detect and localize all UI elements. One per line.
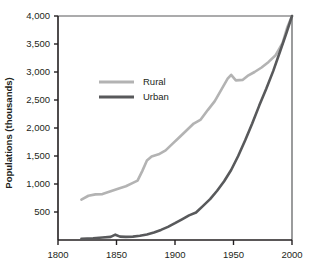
y-tick-label: 2,500 bbox=[26, 94, 50, 105]
x-tick-label: 1850 bbox=[106, 249, 127, 260]
series-line-rural bbox=[81, 16, 292, 200]
chart-legend: RuralUrban bbox=[99, 76, 169, 102]
chart-container: 5001,0001,5002,0002,5003,0003,5004,000 1… bbox=[0, 0, 312, 273]
y-tick-label: 3,000 bbox=[26, 66, 50, 77]
data-series-group bbox=[81, 16, 292, 239]
x-tick-label: 1900 bbox=[164, 249, 185, 260]
population-line-chart: 5001,0001,5002,0002,5003,0003,5004,000 1… bbox=[0, 0, 312, 273]
y-axis-ticks: 5001,0001,5002,0002,5003,0003,5004,000 bbox=[26, 10, 58, 217]
y-tick-label: 3,500 bbox=[26, 38, 50, 49]
y-tick-label: 4,000 bbox=[26, 10, 50, 21]
series-line-urban bbox=[81, 16, 292, 239]
y-tick-label: 1,500 bbox=[26, 150, 50, 161]
y-tick-label: 1,000 bbox=[26, 178, 50, 189]
x-axis-ticks: 18001850190019502000 bbox=[47, 240, 302, 260]
y-tick-label: 2,000 bbox=[26, 122, 50, 133]
plot-frame bbox=[58, 16, 292, 240]
x-tick-label: 1800 bbox=[47, 249, 68, 260]
x-tick-label: 2000 bbox=[281, 249, 302, 260]
y-axis-title: Populations (thousands) bbox=[3, 77, 14, 188]
legend-label-urban: Urban bbox=[143, 91, 169, 102]
x-tick-label: 1950 bbox=[223, 249, 244, 260]
legend-label-rural: Rural bbox=[143, 76, 166, 87]
y-tick-label: 500 bbox=[34, 206, 50, 217]
